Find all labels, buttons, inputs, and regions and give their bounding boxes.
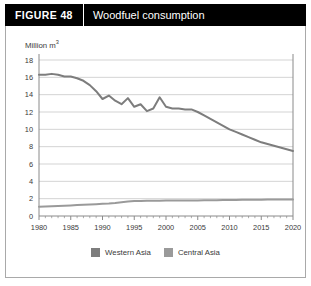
legend-swatch-central-asia <box>164 248 173 257</box>
svg-text:4: 4 <box>29 177 33 186</box>
svg-text:1985: 1985 <box>63 223 79 232</box>
svg-text:0: 0 <box>29 212 33 221</box>
figure-header: FIGURE 48 Woodfuel consumption <box>5 4 306 26</box>
svg-text:2: 2 <box>29 194 33 203</box>
svg-text:8: 8 <box>29 142 33 151</box>
line-chart-svg: 0246810121416181980198519901995200020052… <box>5 26 306 278</box>
chart-legend: Western Asia Central Asia <box>5 248 306 257</box>
svg-text:6: 6 <box>29 160 33 169</box>
svg-text:1995: 1995 <box>126 223 142 232</box>
figure-card: FIGURE 48 Woodfuel consumption Million m… <box>0 0 311 286</box>
legend-label-western-asia: Western Asia <box>105 248 151 257</box>
svg-text:2020: 2020 <box>285 223 301 232</box>
svg-text:1980: 1980 <box>31 223 47 232</box>
svg-text:14: 14 <box>25 90 33 99</box>
legend-item-western-asia: Western Asia <box>91 248 151 257</box>
svg-text:2000: 2000 <box>158 223 174 232</box>
svg-text:10: 10 <box>25 125 33 134</box>
figure-title: Woodfuel consumption <box>84 9 205 21</box>
chart-area: Million m3 02468101214161819801985199019… <box>5 26 306 278</box>
figure-number: FIGURE 48 <box>5 9 73 21</box>
svg-text:2005: 2005 <box>190 223 206 232</box>
svg-text:2010: 2010 <box>221 223 237 232</box>
legend-swatch-western-asia <box>91 248 100 257</box>
svg-text:18: 18 <box>25 56 33 65</box>
svg-text:1990: 1990 <box>94 223 110 232</box>
svg-text:12: 12 <box>25 108 33 117</box>
svg-text:2015: 2015 <box>253 223 269 232</box>
legend-item-central-asia: Central Asia <box>164 248 220 257</box>
legend-label-central-asia: Central Asia <box>178 248 220 257</box>
svg-text:16: 16 <box>25 73 33 82</box>
